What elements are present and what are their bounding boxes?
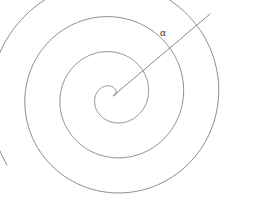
archimedean-spiral-curve bbox=[0, 0, 219, 193]
spiral-diagram-canvas bbox=[0, 0, 259, 220]
spiral-figure: α bbox=[0, 0, 259, 220]
alpha-angle-label: α bbox=[160, 27, 166, 38]
